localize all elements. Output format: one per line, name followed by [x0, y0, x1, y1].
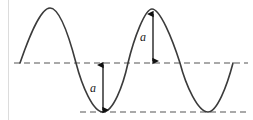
- sine-wave-curve: [20, 8, 233, 112]
- wave-diagram-canvas: [0, 0, 253, 120]
- crest-amplitude-label: a: [140, 31, 146, 43]
- trough-amplitude-label: a: [90, 82, 96, 94]
- wave-amplitude-figure: a a: [0, 0, 253, 120]
